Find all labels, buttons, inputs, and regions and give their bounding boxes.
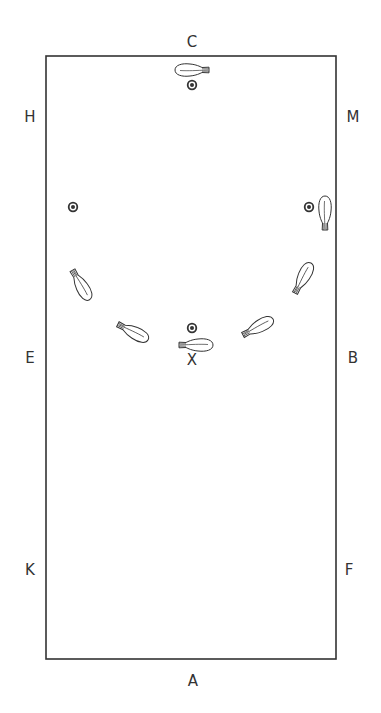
horse-icon (240, 314, 276, 341)
horse-positions (67, 64, 331, 352)
marker-x-icon (187, 323, 197, 333)
horse-icon (67, 267, 95, 303)
horse-icon (179, 339, 213, 352)
horse-icon (115, 319, 151, 346)
letter-b: B (348, 349, 358, 367)
marker-right-icon (304, 202, 314, 212)
letter-c: C (187, 33, 197, 51)
letter-k: K (25, 561, 36, 579)
cone-markers (68, 80, 314, 333)
horse-icon (290, 260, 317, 296)
letter-e: E (25, 349, 34, 367)
horse-icon (319, 196, 332, 230)
letter-x: X (187, 351, 197, 369)
arena-letters: CHMEBXKFA (24, 33, 359, 690)
marker-c-icon (187, 80, 197, 90)
horse-icon (175, 64, 209, 77)
letter-m: M (347, 108, 360, 126)
letter-a: A (188, 672, 199, 690)
letter-h: H (24, 108, 35, 126)
dressage-arena-diagram: CHMEBXKFA (0, 0, 381, 713)
letter-f: F (345, 561, 354, 579)
marker-left-icon (68, 202, 78, 212)
